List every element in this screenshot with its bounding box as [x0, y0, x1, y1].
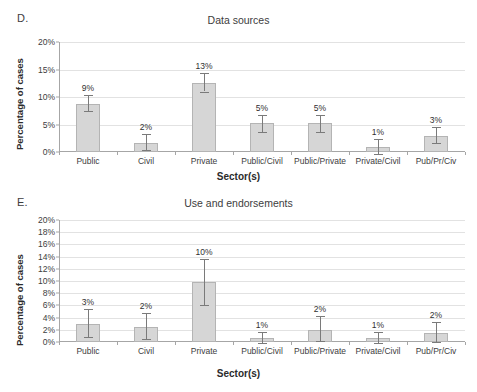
bar-data-label: 2%	[314, 304, 326, 314]
bar-data-label: 9%	[82, 83, 94, 93]
error-bar-cap-lower	[258, 132, 267, 133]
x-tick-label: Private	[191, 156, 217, 166]
x-tick-mark	[59, 152, 60, 155]
x-tick-mark	[407, 152, 408, 155]
error-bar	[320, 115, 321, 132]
bar-data-label: 5%	[314, 103, 326, 113]
chart-title-e: Use and endorsements	[0, 197, 477, 209]
gridline	[59, 318, 465, 319]
y-tick-label: 8%	[43, 288, 55, 298]
x-tick-mark	[233, 342, 234, 345]
y-axis-label-d: Percentage of cases	[14, 58, 25, 150]
error-bar-cap-lower	[142, 339, 151, 340]
gridline	[59, 269, 465, 270]
y-tick-label: 18%	[38, 227, 55, 237]
error-bar-cap-lower	[258, 343, 267, 344]
chart-panel-use-and-endorsements: E. Use and endorsements Percentage of ca…	[0, 184, 477, 392]
x-tick-label: Public/Civil	[241, 346, 283, 356]
bar-data-label: 2%	[140, 301, 152, 311]
x-tick-label: Pub/Pr/Civ	[416, 156, 457, 166]
x-axis-label-e: Sector(s)	[0, 368, 477, 379]
error-bar-cap-upper	[142, 313, 151, 314]
y-tick-label: 0%	[43, 147, 55, 157]
error-bar	[204, 73, 205, 92]
plot-area-e: 0%2%4%6%8%10%12%14%16%18%20%3%Public2%Ci…	[59, 220, 465, 342]
error-bar-cap-upper	[84, 309, 93, 310]
error-bar	[436, 127, 437, 142]
gridline	[59, 232, 465, 233]
bar-data-label: 13%	[195, 61, 212, 71]
x-tick-mark	[291, 152, 292, 155]
error-bar-cap-upper	[432, 322, 441, 323]
bar-data-label: 1%	[372, 320, 384, 330]
error-bar-cap-lower	[84, 111, 93, 112]
x-tick-label: Pub/Pr/Civ	[416, 346, 457, 356]
gridline	[59, 244, 465, 245]
error-bar-cap-upper	[142, 134, 151, 135]
error-bar-cap-upper	[258, 332, 267, 333]
error-bar-cap-lower	[84, 337, 93, 338]
plot-area-d: 0%5%10%15%20%9%Public2%Civil13%Private5%…	[59, 42, 465, 152]
error-bar	[204, 259, 205, 305]
x-tick-label: Public	[76, 156, 99, 166]
gridline	[59, 293, 465, 294]
x-tick-mark	[59, 342, 60, 345]
bar-data-label: 1%	[372, 127, 384, 137]
y-axis-label-e: Percentage of cases	[14, 254, 25, 346]
error-bar	[88, 309, 89, 337]
y-tick-label: 2%	[43, 325, 55, 335]
error-bar	[88, 95, 89, 111]
error-bar-cap-upper	[316, 115, 325, 116]
x-tick-mark	[465, 342, 466, 345]
error-bar-cap-upper	[200, 259, 209, 260]
error-bar-cap-upper	[432, 127, 441, 128]
error-bar-cap-lower	[432, 143, 441, 144]
error-bar-cap-lower	[316, 341, 325, 342]
gridline	[59, 42, 465, 43]
x-tick-mark	[117, 152, 118, 155]
y-tick-label: 6%	[43, 300, 55, 310]
x-tick-label: Civil	[138, 346, 154, 356]
bar-data-label: 1%	[256, 320, 268, 330]
error-bar-cap-upper	[84, 95, 93, 96]
bar-data-label: 2%	[430, 310, 442, 320]
bar	[192, 83, 216, 152]
error-bar	[262, 332, 263, 344]
x-tick-mark	[175, 152, 176, 155]
x-axis-label-d: Sector(s)	[0, 171, 477, 182]
x-tick-mark	[117, 342, 118, 345]
y-tick-label: 10%	[38, 276, 55, 286]
gridline	[59, 281, 465, 282]
gridline	[59, 305, 465, 306]
y-tick-label: 4%	[43, 313, 55, 323]
error-bar-cap-upper	[258, 115, 267, 116]
gridline	[59, 257, 465, 258]
x-tick-label: Civil	[138, 156, 154, 166]
bar-data-label: 5%	[256, 103, 268, 113]
x-tick-label: Public/Civil	[241, 156, 283, 166]
error-bar-cap-upper	[316, 316, 325, 317]
y-tick-label: 0%	[43, 337, 55, 347]
error-bar-cap-upper	[200, 73, 209, 74]
error-bar-cap-lower	[200, 92, 209, 93]
x-tick-label: Private	[191, 346, 217, 356]
error-bar-cap-lower	[432, 342, 441, 343]
error-bar	[262, 115, 263, 132]
y-axis-line	[59, 42, 60, 152]
gridline	[59, 97, 465, 98]
chart-title-d: Data sources	[0, 14, 477, 26]
x-tick-label: Public	[76, 346, 99, 356]
y-tick-label: 5%	[43, 120, 55, 130]
bar-data-label: 10%	[195, 247, 212, 257]
bar-data-label: 2%	[140, 122, 152, 132]
x-tick-mark	[349, 342, 350, 345]
error-bar-cap-lower	[374, 343, 383, 344]
x-tick-mark	[175, 342, 176, 345]
x-tick-mark	[465, 152, 466, 155]
error-bar-cap-lower	[316, 132, 325, 133]
x-tick-label: Public/Private	[294, 346, 346, 356]
error-bar	[146, 134, 147, 149]
error-bar-cap-lower	[374, 154, 383, 155]
error-bar	[378, 332, 379, 343]
error-bar	[436, 322, 437, 342]
